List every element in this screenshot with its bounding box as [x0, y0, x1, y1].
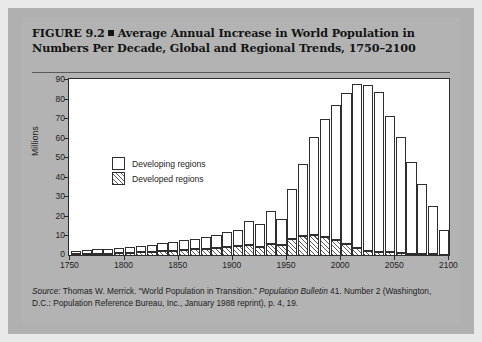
bar-2000: [341, 93, 351, 255]
bar-segment-developing: [244, 221, 254, 245]
bar-segment-developed: [157, 251, 167, 255]
bar-segment-developing: [298, 164, 308, 236]
bar-segment-developing: [276, 219, 286, 246]
bar-segment-developed: [222, 247, 232, 256]
x-tick-mark-1900: [232, 256, 233, 260]
bar-1990: [331, 105, 341, 256]
bar-segment-developed: [71, 254, 81, 256]
y-tick-mark-40: [64, 177, 69, 178]
y-tick-mark-60: [64, 138, 69, 139]
bar-segment-developing: [222, 232, 232, 246]
y-tick-mark-50: [64, 157, 69, 158]
bar-segment-developing: [179, 240, 189, 250]
bar-segment-developing: [352, 84, 362, 247]
x-tick-label-1750: 1750: [60, 260, 79, 270]
x-tick-label-2100: 2100: [439, 260, 458, 270]
y-tick-label-10: 10: [43, 230, 65, 240]
bar-segment-developed: [417, 254, 427, 256]
bar-1780: [103, 249, 113, 256]
figure-panel: FIGURE 9.2Average Annual Increase in Wor…: [22, 18, 460, 324]
bar-segment-developed: [374, 252, 384, 256]
bar-2080: [428, 206, 438, 256]
bar-1750: [71, 251, 81, 256]
bar-1950: [287, 189, 297, 255]
bar-segment-developed: [136, 252, 146, 255]
x-tick-mark-2100: [448, 256, 449, 260]
bar-segment-developed: [320, 237, 330, 255]
legend-item-developed: Developed regions: [112, 171, 206, 186]
y-tick-label-80: 80: [43, 94, 65, 104]
bar-segment-developing: [211, 235, 221, 248]
bar-segment-developing: [331, 105, 341, 240]
bar-segment-developed: [147, 252, 157, 256]
bar-segment-developed: [82, 254, 92, 256]
x-tick-mark-2000: [340, 256, 341, 260]
figure-title-number: FIGURE 9.2: [32, 26, 105, 40]
bar-1930: [266, 211, 276, 256]
bar-segment-developed: [255, 247, 265, 256]
legend-swatch-developing: [112, 157, 125, 170]
bar-1980: [320, 119, 330, 256]
y-tick-mark-70: [64, 118, 69, 119]
bar-segment-developing: [266, 211, 276, 244]
legend-label-developing: Developing regions: [132, 159, 206, 169]
bar-2090: [439, 230, 449, 255]
y-tick-mark-30: [64, 196, 69, 197]
bar-segment-developing: [406, 162, 416, 253]
x-tick-mark-1800: [124, 256, 125, 260]
bar-segment-developing: [190, 239, 200, 250]
x-tick-label-1950: 1950: [277, 260, 296, 270]
source-text: Thomas W. Merrick. “World Population in …: [61, 286, 259, 296]
bar-1800: [125, 247, 135, 256]
bar-1900: [233, 230, 243, 256]
y-tick-mark-80: [64, 99, 69, 100]
bar-segment-developed: [363, 251, 373, 256]
bar-segment-developed: [244, 245, 254, 255]
bar-segment-developing: [320, 119, 330, 238]
chart-legend: Developing regions Developed regions: [112, 156, 206, 186]
x-tick-label-2050: 2050: [385, 260, 404, 270]
bar-2060: [406, 162, 416, 255]
bar-1790: [114, 248, 124, 256]
chart-area: Millions 0102030405060708090 17501800185…: [68, 78, 450, 278]
bar-segment-developed: [266, 244, 276, 256]
bar-segment-developed: [125, 253, 135, 256]
x-tick-mark-1750: [69, 256, 70, 260]
figure-source: Source: Thomas W. Merrick. “World Popula…: [32, 286, 450, 309]
bar-segment-developing: [157, 243, 167, 251]
bar-segment-developed: [276, 245, 286, 255]
bar-segment-developing: [428, 206, 438, 255]
bar-segment-developing: [363, 85, 373, 250]
bar-1860: [190, 239, 200, 256]
bar-segment-developing: [201, 237, 211, 249]
bar-segment-developing: [255, 224, 265, 246]
bar-1960: [298, 164, 308, 255]
legend-swatch-developed: [112, 172, 125, 185]
bar-1890: [222, 232, 232, 255]
bar-1820: [147, 245, 157, 256]
bar-segment-developing: [341, 93, 351, 244]
bar-1810: [136, 246, 146, 256]
bar-segment-developed: [201, 249, 211, 256]
bar-segment-developed: [428, 254, 438, 256]
y-tick-mark-90: [64, 79, 69, 80]
bar-2040: [385, 116, 395, 255]
page-background: FIGURE 9.2Average Annual Increase in Wor…: [0, 0, 482, 342]
bar-1970: [309, 137, 319, 256]
y-tick-label-90: 90: [43, 74, 65, 84]
bar-segment-developing: [168, 242, 178, 251]
bar-segment-developed: [341, 244, 351, 256]
y-tick-label-60: 60: [43, 133, 65, 143]
x-tick-label-1850: 1850: [168, 260, 187, 270]
x-tick-mark-2050: [394, 256, 395, 260]
bar-segment-developed: [298, 236, 308, 255]
bar-segment-developing: [136, 246, 146, 253]
x-tick-label-2000: 2000: [331, 260, 350, 270]
y-tick-mark-10: [64, 235, 69, 236]
y-tick-label-70: 70: [43, 113, 65, 123]
bar-segment-developed: [168, 251, 178, 256]
bar-segment-developed: [352, 248, 362, 256]
bar-segment-developing: [309, 137, 319, 235]
bar-2050: [396, 137, 406, 256]
bar-1880: [211, 235, 221, 256]
